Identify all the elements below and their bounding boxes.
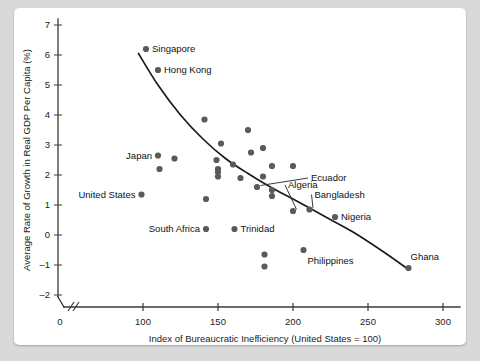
y-tick-label: 1 <box>45 199 50 210</box>
x-tick-label: 0 <box>57 316 62 327</box>
y-tick-label: 0 <box>45 229 50 240</box>
data-point <box>290 163 296 169</box>
point-label-united-states: United States <box>78 189 135 200</box>
leader-line-bangladesh <box>312 195 314 209</box>
data-point <box>237 175 243 181</box>
data-point <box>218 140 224 146</box>
data-point <box>261 251 267 257</box>
point-label-bangladesh: Bangladesh <box>315 189 365 200</box>
data-points-group <box>138 46 411 271</box>
chart-card: –2–1012345670100150200250300 SingaporeHo… <box>14 8 466 345</box>
data-point-ghana <box>405 265 411 271</box>
y-tick-label: 5 <box>45 79 50 90</box>
data-point <box>260 145 266 151</box>
data-point-south-africa <box>203 226 209 232</box>
point-label-philippines: Philippines <box>308 255 354 266</box>
data-point-philippines <box>300 247 306 253</box>
point-label-hong-kong: Hong Kong <box>164 64 212 75</box>
data-point <box>261 263 267 269</box>
data-point <box>213 157 219 163</box>
x-tick-label: 300 <box>435 316 451 327</box>
y-tick-label: 2 <box>45 169 50 180</box>
y-tick-label: 6 <box>45 49 50 60</box>
data-point-united-states <box>138 191 144 197</box>
y-axis-title: Average Rate of Growth in Real GDP Per C… <box>21 49 32 271</box>
x-tick-label: 200 <box>285 316 301 327</box>
figure-root: –2–1012345670100150200250300 SingaporeHo… <box>0 0 480 361</box>
data-point <box>245 127 251 133</box>
data-point-hong-kong <box>155 67 161 73</box>
y-tick-label: 7 <box>45 19 50 30</box>
data-point-nigeria <box>332 214 338 220</box>
y-axis-elbow <box>58 297 64 307</box>
point-label-ghana: Ghana <box>411 251 440 262</box>
y-tick-label: 3 <box>45 139 50 150</box>
point-label-south-africa: South Africa <box>149 223 201 234</box>
x-tick-label: 100 <box>135 316 151 327</box>
data-point <box>260 173 266 179</box>
data-point <box>230 161 236 167</box>
data-point <box>156 166 162 172</box>
x-tick-label: 250 <box>360 316 376 327</box>
point-label-singapore: Singapore <box>152 43 195 54</box>
data-point-singapore <box>143 46 149 52</box>
data-point <box>269 193 275 199</box>
x-axis-title: Index of Bureaucratic Inefficiency (Unit… <box>149 333 381 344</box>
data-point <box>203 196 209 202</box>
point-label-trinidad: Trinidad <box>241 223 275 234</box>
data-point-ecuador <box>254 184 260 190</box>
data-point-japan <box>155 152 161 158</box>
data-point <box>171 155 177 161</box>
y-tick-label: –1 <box>39 259 50 270</box>
data-point-algeria <box>290 208 296 214</box>
data-point-bangladesh <box>306 206 312 212</box>
data-point <box>269 163 275 169</box>
data-point <box>201 116 207 122</box>
point-label-nigeria: Nigeria <box>341 211 372 222</box>
point-labels-group: SingaporeHong KongJapanUnited StatesSout… <box>78 43 439 266</box>
y-tick-label: 4 <box>45 109 50 120</box>
point-label-japan: Japan <box>126 150 152 161</box>
data-point <box>248 149 254 155</box>
y-tick-label: –2 <box>39 289 50 300</box>
trend-curve <box>139 54 409 270</box>
axes-group: –2–1012345670100150200250300 <box>39 19 460 327</box>
data-point <box>269 187 275 193</box>
scatter-chart: –2–1012345670100150200250300 SingaporeHo… <box>14 8 466 345</box>
x-tick-label: 150 <box>210 316 226 327</box>
data-point <box>215 173 221 179</box>
data-point-trinidad <box>231 226 237 232</box>
trend-curve-path <box>139 54 409 270</box>
